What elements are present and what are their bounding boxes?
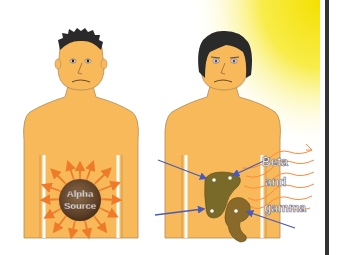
beta-label: Beta: [262, 155, 288, 169]
and-label: and: [265, 175, 286, 189]
gamma-label: gamma: [264, 201, 306, 215]
alpha-label-line1: Alpha: [67, 188, 94, 199]
radiation-exposure-diagram: Alpha Source: [0, 0, 339, 255]
divider-bar: [325, 0, 329, 255]
alpha-label-line2: Source: [64, 200, 96, 211]
left-figure: Alpha Source: [24, 28, 139, 238]
